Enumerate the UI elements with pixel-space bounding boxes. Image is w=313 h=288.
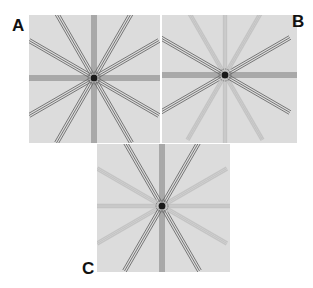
spoke-line: [188, 78, 224, 139]
spoke-line: [29, 41, 90, 77]
spoke-line: [97, 80, 158, 116]
spoke-line: [98, 15, 134, 76]
spoke-line: [57, 15, 93, 75]
spoke-line: [58, 15, 94, 74]
spoke-line: [162, 39, 221, 75]
spoke-line: [98, 42, 159, 78]
spoke-line: [164, 144, 200, 203]
radial-spokes-c: [97, 144, 230, 272]
spoke-line: [162, 36, 223, 71]
spoke-line: [125, 144, 161, 203]
panel-c: [97, 144, 230, 272]
spoke-line: [165, 169, 226, 205]
spoke-line: [186, 15, 222, 72]
spoke-line: [58, 82, 94, 143]
spoke-line: [165, 208, 226, 244]
spoke-line: [55, 80, 90, 141]
spoke-line: [227, 78, 263, 139]
spoke-line: [57, 81, 93, 142]
spoke-line: [30, 39, 91, 74]
panel-label-b: B: [292, 13, 304, 30]
center-dot: [159, 203, 166, 210]
spoke-line: [94, 15, 129, 74]
spoke-line: [30, 82, 91, 118]
spoke-line: [97, 208, 158, 244]
center-dot: [222, 72, 229, 79]
spoke-line: [162, 79, 223, 114]
radial-spokes-b: [162, 15, 297, 143]
spoke-line: [162, 210, 198, 271]
spoke-line: [162, 75, 221, 111]
spoke-line: [29, 42, 90, 78]
spoke-line: [229, 75, 290, 111]
spoke-line: [229, 39, 290, 75]
spoke-line: [96, 82, 157, 118]
radial-spokes-a: [29, 15, 160, 143]
spoke-line: [126, 210, 162, 271]
panel-b: [162, 15, 297, 143]
spoke-line: [55, 15, 90, 76]
spoke-line: [98, 78, 159, 114]
spoke-line: [29, 78, 90, 114]
spoke-line: [97, 169, 158, 205]
spoke-line: [98, 80, 134, 141]
spoke-line: [96, 39, 157, 74]
center-dot: [91, 75, 98, 82]
spoke-line: [96, 15, 132, 75]
spoke-line: [96, 81, 132, 142]
spoke-line: [228, 15, 264, 72]
panel-a: [29, 15, 160, 143]
panel-label-a: A: [12, 17, 24, 34]
spoke-line: [97, 41, 158, 77]
spoke-line: [94, 82, 129, 143]
panel-label-c: C: [82, 260, 94, 277]
spoke-line: [29, 80, 90, 116]
